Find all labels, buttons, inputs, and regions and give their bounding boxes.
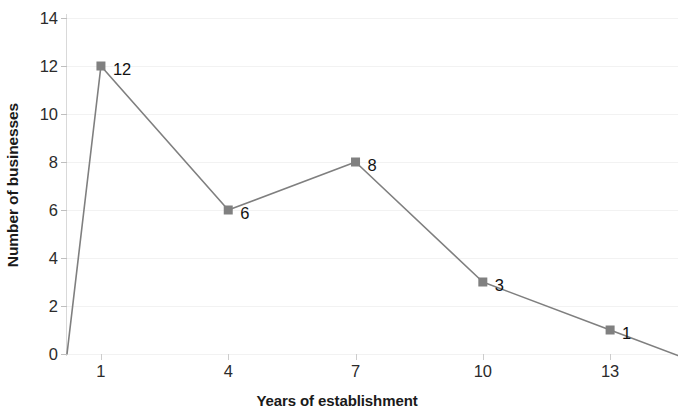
y-axis-tick-mark xyxy=(61,210,67,211)
x-axis-tick-mark xyxy=(483,354,484,360)
series-markers xyxy=(96,62,614,335)
x-axis-tick-mark xyxy=(101,354,102,360)
y-axis-tick-mark xyxy=(61,354,67,355)
x-axis-tick-label: 1 xyxy=(71,362,131,381)
y-axis-tick-mark xyxy=(61,306,67,307)
series-line xyxy=(67,66,678,356)
y-axis-tick-mark xyxy=(61,162,67,163)
line-chart: Number of businesses 02468101214 Years o… xyxy=(0,0,678,418)
x-axis-tick-label: 13 xyxy=(580,362,640,381)
x-axis-tick-label: 7 xyxy=(326,362,386,381)
x-axis-title: Years of establishment xyxy=(67,392,607,409)
data-point-marker[interactable] xyxy=(224,206,233,215)
x-axis-tick-mark xyxy=(228,354,229,360)
data-point-label: 6 xyxy=(240,204,249,223)
data-point-label: 1 xyxy=(622,324,631,343)
data-point-label: 3 xyxy=(495,276,504,295)
x-axis-tick-mark xyxy=(356,354,357,360)
x-axis-tick-label: 4 xyxy=(198,362,258,381)
data-point-marker[interactable] xyxy=(606,326,615,335)
y-axis-tick-mark xyxy=(61,114,67,115)
data-point-marker[interactable] xyxy=(96,62,105,71)
data-point-marker[interactable] xyxy=(478,278,487,287)
data-point-label: 8 xyxy=(368,156,377,175)
data-point-marker[interactable] xyxy=(351,158,360,167)
y-axis-tick-mark xyxy=(61,258,67,259)
y-axis-tick-mark xyxy=(61,18,67,19)
x-axis-tick-mark xyxy=(610,354,611,360)
x-axis-tick-label: 10 xyxy=(453,362,513,381)
y-axis-tick-mark xyxy=(61,66,67,67)
data-point-label: 12 xyxy=(113,60,131,79)
